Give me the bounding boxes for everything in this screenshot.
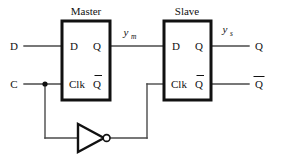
circuit-diagram: Master Slave D C Q Q D Q Clk Q D Q Clk Q… xyxy=(0,0,281,160)
junction-dot-c xyxy=(42,81,47,86)
master-caption: Master xyxy=(71,5,102,17)
output-label-qbar: Q xyxy=(255,78,263,90)
net-label-ym-subscript: m xyxy=(131,32,137,41)
master-port-qbar: Q xyxy=(93,78,101,90)
not-gate-triangle[interactable] xyxy=(78,124,104,152)
input-label-d: D xyxy=(10,40,18,52)
output-label-q: Q xyxy=(255,40,263,52)
circuit-canvas: Master Slave D C Q Q D Q Clk Q D Q Clk Q… xyxy=(0,0,281,160)
slave-port-d: D xyxy=(172,40,180,52)
slave-port-qbar: Q xyxy=(195,78,203,90)
slave-port-q: Q xyxy=(195,40,203,52)
net-label-ym-base: y xyxy=(123,26,129,38)
input-label-c: C xyxy=(10,78,17,90)
net-label-ys-subscript: s xyxy=(230,29,233,38)
slave-caption: Slave xyxy=(175,5,200,17)
master-port-d: D xyxy=(70,40,78,52)
not-gate-bubble xyxy=(103,135,110,142)
net-label-ys-base: y xyxy=(222,23,228,35)
master-port-clk: Clk xyxy=(69,78,85,90)
master-port-q: Q xyxy=(93,40,101,52)
slave-port-clk: Clk xyxy=(171,78,187,90)
